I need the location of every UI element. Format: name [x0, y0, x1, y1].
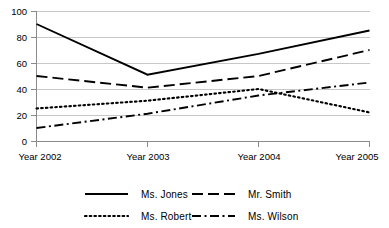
legend-entry-ms-robert[interactable]: Ms. Robert: [0, 211, 175, 222]
line-chart: 100 80 60 40 20 0 Year 2002 Year 2003 Ye…: [0, 0, 389, 228]
series-line-ms-robert: [37, 89, 370, 112]
gridlines: [36, 11, 370, 115]
legend-entry-ms-wilson[interactable]: Ms. Wilson: [175, 211, 375, 222]
legend-label-mr-smith: Mr. Smith: [236, 189, 292, 200]
y-tick-label-0: 0: [22, 136, 27, 147]
data-series-group: [37, 24, 370, 128]
x-tick-label-2004: Year 2004: [238, 151, 281, 162]
y-tickmarks: [31, 11, 36, 141]
series-line-mr-smith: [37, 50, 370, 88]
legend-row-1: Ms. Jones Mr. Smith: [0, 183, 389, 205]
legend-swatch-dashdot-icon: [191, 211, 236, 221]
legend-swatch-dotted-icon: [84, 211, 129, 221]
y-axis-labels: 100 80 60 40 20 0: [11, 6, 27, 147]
chart-legend: Ms. Jones Mr. Smith Ms. Robert: [0, 180, 389, 228]
y-tick-label-20: 20: [16, 110, 27, 121]
x-axis-labels: Year 2002 Year 2003 Year 2004 Year 2005: [19, 151, 379, 162]
x-tick-label-2003: Year 2003: [127, 151, 170, 162]
x-tick-label-2002: Year 2002: [19, 151, 62, 162]
legend-label-ms-wilson: Ms. Wilson: [236, 211, 298, 222]
plot-area: 100 80 60 40 20 0 Year 2002 Year 2003 Ye…: [0, 0, 389, 178]
y-tick-label-100: 100: [11, 6, 27, 17]
legend-row-2: Ms. Robert Ms. Wilson: [0, 205, 389, 227]
legend-entry-mr-smith[interactable]: Mr. Smith: [175, 189, 375, 200]
series-line-ms-jones: [37, 24, 370, 75]
x-tick-label-2005: Year 2005: [336, 151, 379, 162]
legend-swatch-solid-icon: [84, 189, 129, 199]
legend-entry-ms-jones[interactable]: Ms. Jones: [0, 189, 175, 200]
y-tick-label-60: 60: [16, 58, 27, 69]
y-tick-label-40: 40: [16, 84, 27, 95]
y-tick-label-80: 80: [16, 32, 27, 43]
legend-swatch-dashed-icon: [191, 189, 236, 199]
